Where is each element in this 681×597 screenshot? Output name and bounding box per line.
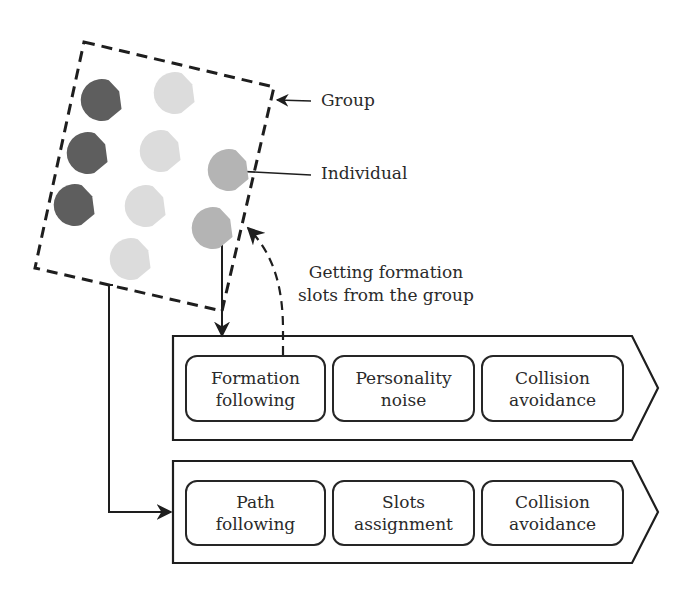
agent-dark-icon [50,180,101,230]
agent-light-icon [150,68,201,118]
agent-dark-icon [63,128,114,178]
module-line2: following [216,513,295,535]
module-collision-avoidance-group: Collision avoidance [481,480,624,546]
module-slots-assignment: Slots assignment [332,480,475,546]
getting-slots-note: Getting formation slots from the group [296,261,476,307]
module-line2: avoidance [509,389,596,411]
module-collision-avoidance-individual: Collision avoidance [481,355,624,422]
agent-dark-icon [77,75,128,125]
agent-light-icon [121,181,172,231]
module-line2: following [216,389,295,411]
getting-slots-line2: slots from the group [296,284,476,307]
module-path-following: Path following [185,480,326,546]
agent-light-icon [106,234,157,284]
individual-label: Individual [321,163,407,184]
module-line1: Personality [355,367,451,389]
diagram-canvas: Group Individual Getting formation slots… [0,0,681,597]
getting-slots-line1: Getting formation [296,261,476,284]
module-line2: assignment [354,513,453,535]
module-line1: Collision [515,367,590,389]
module-line1: Path [236,491,275,513]
module-formation-following: Formation following [185,355,326,422]
agent-mid-icon [188,203,239,253]
module-line2: noise [381,389,426,411]
agent-light-icon [136,126,187,176]
module-line1: Formation [211,367,300,389]
group-label: Group [321,90,375,111]
module-personality-noise: Personality noise [332,355,475,422]
module-line1: Slots [382,491,425,513]
module-line1: Collision [515,491,590,513]
module-line2: avoidance [509,513,596,535]
agent-mid-icon [204,145,255,195]
